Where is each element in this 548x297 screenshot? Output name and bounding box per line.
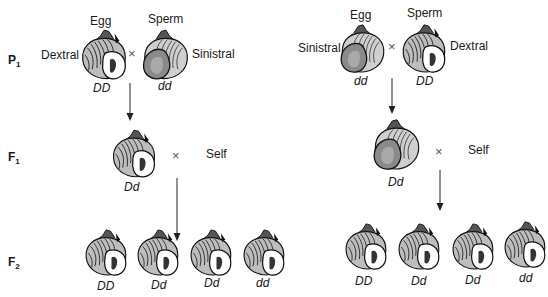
right-p1-sperm-genotype: DD bbox=[416, 74, 433, 88]
left-f1-genotype: Dd bbox=[124, 180, 139, 194]
dextral-shell-icon bbox=[451, 222, 495, 272]
dextral-shell-icon bbox=[80, 29, 128, 81]
down-arrow-icon bbox=[387, 78, 397, 114]
generation-label-f1: F1 bbox=[8, 150, 20, 169]
left-f2-genotype-2: Dd bbox=[151, 278, 166, 292]
sinistral-shell-icon bbox=[142, 29, 190, 81]
dextral-shell-icon bbox=[111, 129, 157, 179]
left-p1-sperm-role: Sperm bbox=[148, 12, 183, 26]
right-f1-mate: Self bbox=[468, 143, 489, 157]
dextral-shell-icon bbox=[189, 228, 233, 278]
f2-subscript: 2 bbox=[15, 262, 19, 271]
down-arrow-icon bbox=[435, 170, 445, 212]
dextral-shell-icon bbox=[397, 222, 441, 272]
dextral-shell-icon bbox=[344, 222, 388, 272]
f1-subscript: 1 bbox=[15, 157, 19, 166]
sinistral-shell-icon bbox=[373, 118, 421, 172]
cross-symbol: × bbox=[172, 148, 180, 163]
right-p1-egg-role: Egg bbox=[350, 8, 371, 22]
dextral-shell-icon bbox=[136, 228, 180, 278]
right-p1-sperm-role: Sperm bbox=[407, 6, 442, 20]
right-p1-egg-phenotype: Sinistral bbox=[298, 41, 341, 55]
left-f2-genotype-3: Dd bbox=[204, 276, 219, 290]
right-f2-genotype-2: Dd bbox=[411, 274, 426, 288]
right-f2-genotype-3: Dd bbox=[465, 273, 480, 287]
right-f1-genotype: Dd bbox=[388, 175, 403, 189]
dextral-shell-icon bbox=[84, 228, 128, 278]
down-arrow-icon bbox=[125, 83, 135, 121]
left-f1-mate: Self bbox=[206, 147, 227, 161]
p1-subscript: 1 bbox=[16, 60, 20, 69]
p1-letter: P bbox=[8, 53, 16, 67]
left-p1-sperm-phenotype: Sinistral bbox=[192, 47, 235, 61]
dextral-shell-icon bbox=[503, 220, 547, 270]
generation-label-f2: F2 bbox=[8, 255, 20, 274]
right-p1-egg-genotype: dd bbox=[354, 74, 367, 88]
generation-label-p1: P1 bbox=[8, 53, 20, 72]
right-f2-genotype-1: DD bbox=[355, 274, 372, 288]
left-p1-egg-role: Egg bbox=[90, 14, 111, 28]
right-f2-genotype-4: dd bbox=[519, 271, 532, 285]
cross-symbol: × bbox=[435, 144, 443, 159]
cross-symbol: × bbox=[128, 46, 136, 61]
dextral-shell-icon bbox=[242, 228, 286, 278]
left-f2-genotype-1: DD bbox=[97, 279, 114, 293]
left-f2-genotype-4: dd bbox=[256, 276, 269, 290]
dextral-shell-icon bbox=[401, 23, 447, 75]
sinistral-shell-icon bbox=[340, 23, 386, 75]
left-p1-sperm-genotype: dd bbox=[158, 79, 171, 93]
left-p1-egg-genotype: DD bbox=[93, 81, 110, 95]
right-p1-sperm-phenotype: Dextral bbox=[450, 39, 488, 53]
left-p1-egg-phenotype: Dextral bbox=[41, 48, 79, 62]
cross-symbol: × bbox=[388, 39, 396, 54]
